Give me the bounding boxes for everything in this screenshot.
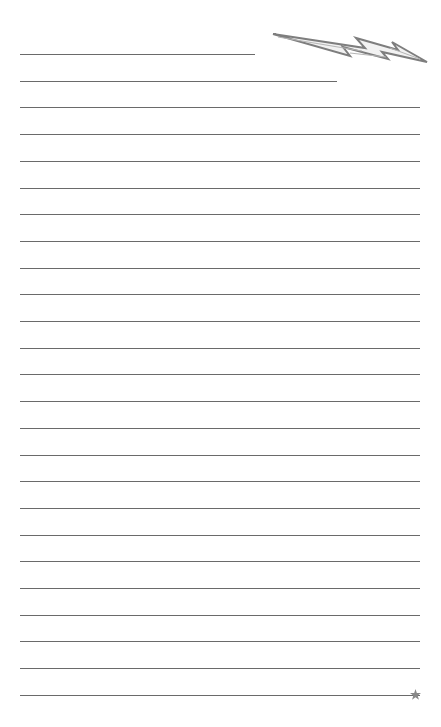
ruled-line	[20, 641, 420, 642]
ruled-line	[20, 81, 337, 82]
ruled-line	[20, 161, 420, 162]
ruled-line	[20, 107, 420, 108]
ruled-line	[20, 561, 420, 562]
ruled-line	[20, 615, 420, 616]
ruled-line	[20, 134, 420, 135]
ruled-line	[20, 401, 420, 402]
star-icon	[410, 689, 421, 700]
ruled-line	[20, 535, 420, 536]
ruled-line	[20, 241, 420, 242]
ruled-line	[20, 321, 420, 322]
ruled-line	[20, 455, 420, 456]
ruled-line	[20, 214, 420, 215]
ruled-line	[20, 54, 255, 55]
ruled-line	[20, 188, 420, 189]
ruled-line	[20, 668, 420, 669]
lined-paper-sheet	[0, 0, 441, 727]
lightning-bolt-icon	[270, 28, 430, 68]
ruled-line	[20, 695, 420, 696]
ruled-line	[20, 374, 420, 375]
ruled-line	[20, 428, 420, 429]
ruled-line	[20, 268, 420, 269]
ruled-line	[20, 508, 420, 509]
ruled-line	[20, 481, 420, 482]
ruled-line	[20, 294, 420, 295]
ruled-line	[20, 588, 420, 589]
ruled-line	[20, 348, 420, 349]
